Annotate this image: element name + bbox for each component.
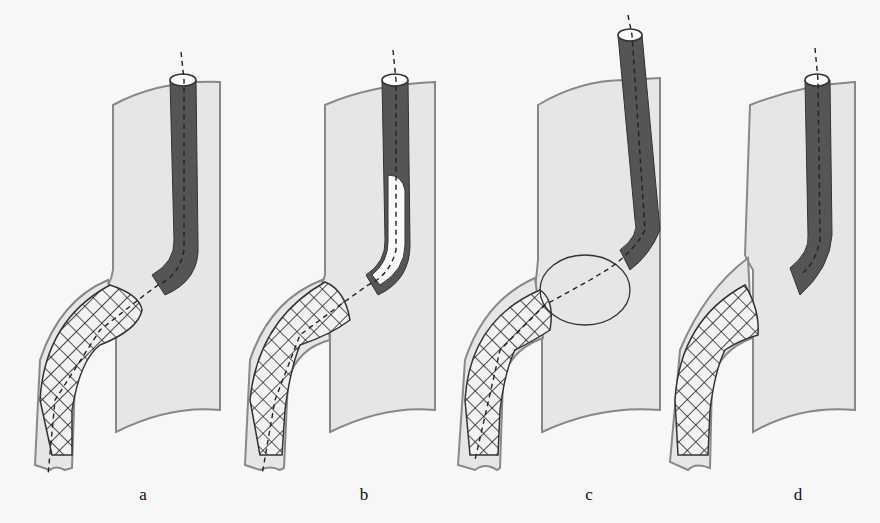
catheter-opening [170, 74, 196, 86]
catheter-opening [382, 74, 408, 86]
catheter-opening [618, 29, 642, 41]
main-vessel [320, 82, 435, 432]
figure: a b c d [0, 0, 880, 523]
panel-d [670, 48, 855, 470]
main-vessel [745, 82, 855, 432]
panel-label-b: b [360, 485, 369, 505]
panel-a [35, 52, 220, 475]
panel-b [245, 50, 435, 475]
stent [675, 285, 758, 455]
panel-label-c: c [585, 485, 593, 505]
diagram-canvas [0, 0, 880, 523]
panel-label-d: d [794, 485, 803, 505]
panel-label-a: a [139, 485, 147, 505]
panel-c [458, 15, 660, 470]
main-vessel [108, 82, 220, 432]
stent [465, 290, 551, 455]
